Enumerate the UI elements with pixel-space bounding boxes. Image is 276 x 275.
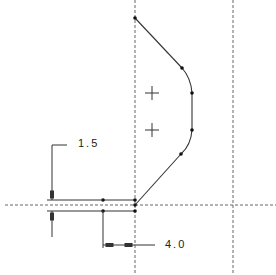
arrow-icon <box>51 191 54 198</box>
vertex-point[interactable] <box>190 128 194 132</box>
leader-line <box>52 145 67 200</box>
arc-center-cross-icon[interactable] <box>145 123 159 137</box>
vertex-point[interactable] <box>133 198 137 202</box>
dimension-4-0[interactable] <box>103 211 155 248</box>
sketch-canvas[interactable] <box>0 0 276 275</box>
vertex-point[interactable] <box>180 66 184 70</box>
profile-line-top[interactable] <box>135 18 182 68</box>
vertex-point[interactable] <box>190 91 194 95</box>
vertices <box>101 16 194 213</box>
profile[interactable] <box>135 18 192 205</box>
arrow-icon <box>106 244 113 247</box>
arrow-icon <box>51 213 54 220</box>
vertex-point[interactable] <box>179 152 183 156</box>
dimension-label-1-5[interactable]: 1.5 <box>78 137 99 149</box>
arc-center-marks <box>145 86 159 137</box>
centerlines <box>5 0 276 275</box>
dimension-1-5[interactable] <box>47 145 103 237</box>
vertex-point[interactable] <box>133 209 137 213</box>
vertex-point[interactable] <box>133 203 137 207</box>
arrow-icon <box>125 244 132 247</box>
profile-arc-bottom[interactable] <box>181 130 192 154</box>
arc-center-cross-icon[interactable] <box>145 86 159 100</box>
dimension-label-4-0[interactable]: 4.0 <box>165 238 186 250</box>
vertex-point[interactable] <box>133 16 137 20</box>
profile-line-bottom[interactable] <box>135 154 181 205</box>
profile-arc-top[interactable] <box>182 68 192 93</box>
